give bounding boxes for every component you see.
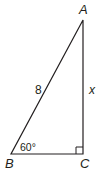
vertex-label-b: B	[5, 156, 14, 171]
vertex-label-a: A	[78, 2, 88, 17]
triangle-abc	[11, 20, 83, 154]
vertex-label-c: C	[80, 156, 90, 171]
angle-label-b: 60°	[20, 141, 36, 153]
right-triangle-diagram: A B C 8 x 60°	[0, 0, 103, 175]
side-label-leg-x: x	[88, 83, 96, 97]
side-label-hypotenuse: 8	[35, 83, 42, 97]
right-angle-marker	[76, 147, 83, 154]
